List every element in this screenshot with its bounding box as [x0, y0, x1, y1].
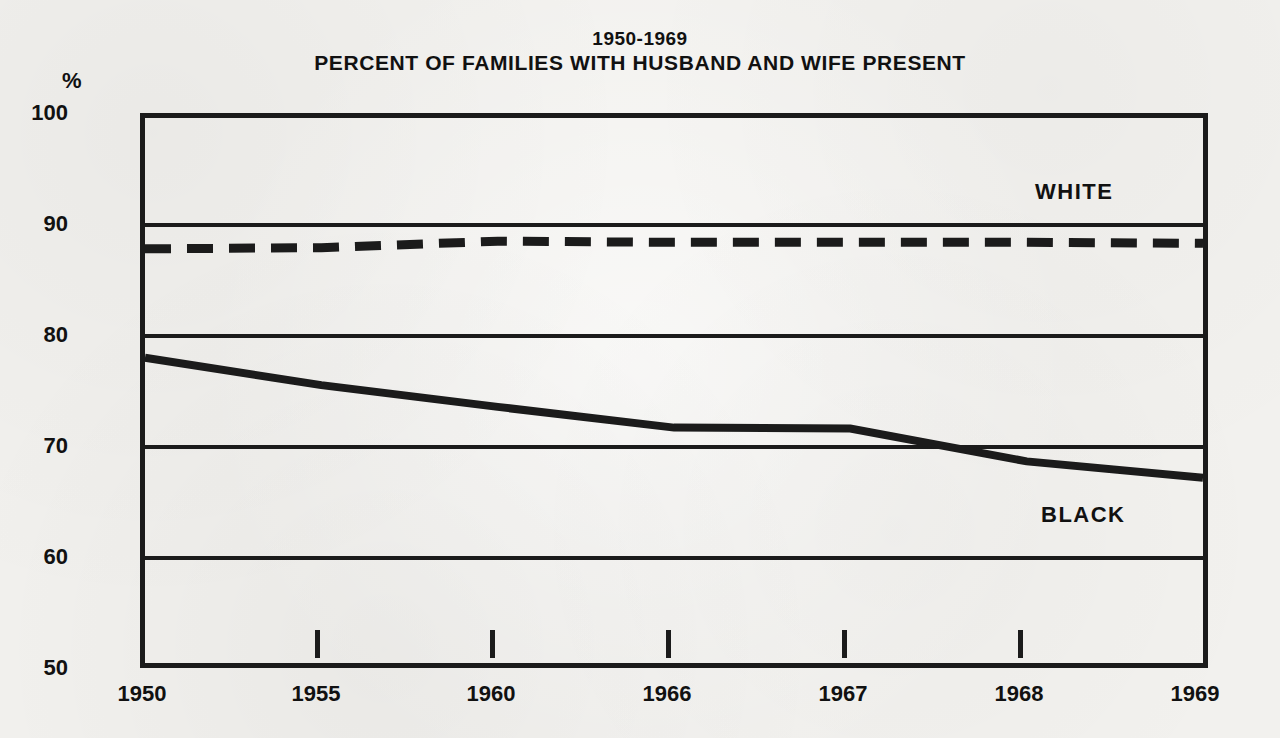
chart-title-block: 1950-1969 PERCENT OF FAMILIES WITH HUSBA…: [0, 28, 1280, 76]
x-tick-label-1955: 1955: [256, 682, 376, 706]
y-tick-label-100: 100: [0, 102, 68, 124]
x-tick-label-1950: 1950: [82, 682, 202, 706]
x-tick-label-1967: 1967: [783, 682, 903, 706]
series-line-black: [145, 358, 1203, 478]
series-line-white: [145, 241, 1203, 249]
y-tick-label-60: 60: [0, 546, 68, 568]
series-label-black: BLACK: [1041, 503, 1126, 527]
y-tick-label-90: 90: [0, 213, 68, 235]
y-tick-label-70: 70: [0, 435, 68, 457]
x-tick-label-1968: 1968: [959, 682, 1079, 706]
chart-page: 1950-1969 PERCENT OF FAMILIES WITH HUSBA…: [0, 0, 1280, 738]
y-tick-label-50: 50: [0, 657, 68, 679]
chart-subtitle-years: 1950-1969: [0, 28, 1280, 50]
y-tick-label-80: 80: [0, 324, 68, 346]
x-tick-label-1960: 1960: [431, 682, 551, 706]
series-label-white: WHITE: [1035, 180, 1113, 204]
plot-inner: WHITE BLACK: [145, 118, 1203, 663]
y-axis-unit-symbol: %: [62, 70, 82, 92]
x-tick-label-1969: 1969: [1135, 682, 1255, 706]
page-title: PERCENT OF FAMILIES WITH HUSBAND AND WIF…: [0, 50, 1280, 76]
x-tick-label-1966: 1966: [607, 682, 727, 706]
plot-area: WHITE BLACK: [140, 113, 1208, 668]
